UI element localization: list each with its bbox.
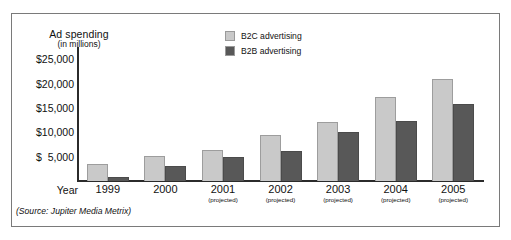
x-tick-2005: 2005(projected) [424,184,482,203]
bar-group [137,47,195,181]
y-tick-label: $ 5,000 [16,151,74,163]
source-note: (Source: Jupiter Media Metrix) [16,206,131,216]
x-tick-2000: 2000 [137,184,195,203]
bar-group [309,47,367,181]
y-tick-label: $10,000 [16,126,74,138]
bar-b2b-2002[interactable] [281,151,302,181]
x-tick-year: 2005 [424,184,482,196]
bar-b2b-2001[interactable] [223,157,244,181]
x-tick-year: 2001 [194,184,252,196]
x-tick-note: (projected) [424,197,482,204]
y-tick-label: $20,000 [16,78,74,90]
x-tick-2001: 2001(projected) [194,184,252,203]
plot-area: $25,000$20,000$15,000$10,000$ 5,000 1999… [12,14,501,228]
bar-b2c-2001[interactable] [202,150,223,181]
bar-b2b-2005[interactable] [453,104,474,181]
bar-b2b-1999[interactable] [108,177,129,181]
bar-group [252,47,310,181]
x-tick-2003: 2003(projected) [309,184,367,203]
bar-b2c-2003[interactable] [317,122,338,181]
x-tick-1999: 1999 [79,184,137,203]
x-tick-2002: 2002(projected) [252,184,310,203]
bar-b2c-2000[interactable] [144,156,165,181]
bar-b2c-1999[interactable] [87,164,108,181]
x-tick-note: (projected) [309,197,367,204]
bar-b2c-2005[interactable] [432,79,453,181]
bar-group [424,47,482,181]
bar-b2c-2002[interactable] [260,135,281,181]
bar-group [79,47,137,181]
bar-b2b-2000[interactable] [165,166,186,181]
x-tick-year: 2004 [367,184,425,196]
x-tick-year: 2003 [309,184,367,196]
y-tick-label: $25,000 [16,53,74,65]
x-tick-year: 2000 [137,184,195,196]
x-axis-title: Year [20,184,78,196]
x-tick-note: (projected) [252,197,310,204]
x-tick-note: (projected) [367,197,425,204]
x-tick-note: (projected) [194,197,252,204]
bar-b2c-2004[interactable] [375,97,396,181]
ad-spending-bar-chart: Ad spending (in millions) B2C advertisin… [11,13,500,227]
bar-group [194,47,252,181]
x-tick-2004: 2004(projected) [367,184,425,203]
y-tick-label: $15,000 [16,102,74,114]
bar-b2b-2004[interactable] [396,121,417,181]
bar-b2b-2003[interactable] [338,132,359,181]
x-tick-year: 1999 [79,184,137,196]
bars-container [79,47,482,181]
bar-group [367,47,425,181]
x-tick-year: 2002 [252,184,310,196]
x-axis-tick-labels: 199920002001(projected)2002(projected)20… [79,184,482,203]
